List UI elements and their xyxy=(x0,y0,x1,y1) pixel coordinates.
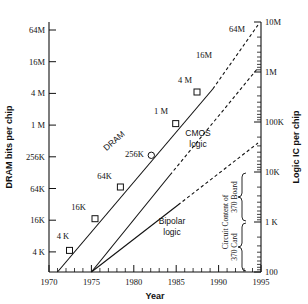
chart-figure: 64M 16M 4 M 1 M 256K 64K 16K 4 K DRAM bi… xyxy=(0,0,308,304)
left-tick-label: 16K xyxy=(30,215,46,225)
left-tick-label: 16M xyxy=(29,57,46,67)
data-point-marker xyxy=(148,152,154,158)
right-axis-tick-labels: 10M 1M 100K 10K 1 K 100 xyxy=(265,17,285,277)
bracket-370-board xyxy=(238,173,246,221)
point-label: 1 M xyxy=(154,106,168,116)
point-label: 256K xyxy=(125,149,145,159)
data-point-marker xyxy=(67,247,73,253)
left-tick-label: 1 M xyxy=(31,120,45,130)
x-axis-title: Year xyxy=(145,291,165,301)
x-tick-label: 1980 xyxy=(125,277,142,287)
series-label-cmos-line1: CMOS xyxy=(185,128,211,138)
series-label-bipolar-line2: logic xyxy=(163,227,181,237)
series-label-bipolar-line1: Bipolar xyxy=(159,216,186,226)
left-axis-ticks xyxy=(49,30,56,252)
right-tick-label: 1M xyxy=(265,67,277,77)
x-tick-label: 1990 xyxy=(210,277,227,287)
x-axis-tick-labels: 1970 1975 1980 1985 1990 1995 xyxy=(41,277,270,287)
right-tick-label: 10M xyxy=(265,17,282,27)
right-tick-label: 10K xyxy=(265,167,281,177)
x-axis-minor-ticks xyxy=(58,268,253,272)
x-tick-label: 1975 xyxy=(83,277,100,287)
point-label: 16M xyxy=(196,50,213,60)
left-tick-label: 64M xyxy=(29,25,46,35)
right-axis-major-ticks xyxy=(254,22,261,272)
right-tick-label: 100K xyxy=(265,117,285,127)
point-label: 4 M xyxy=(178,75,192,85)
data-point-marker xyxy=(194,89,200,95)
bracket-370-card xyxy=(238,223,246,271)
x-tick-label: 1995 xyxy=(253,277,270,287)
right-tick-label: 1 K xyxy=(265,217,278,227)
left-tick-label: 64K xyxy=(30,184,46,194)
annotation-370-board: 370 Board xyxy=(230,181,239,213)
circuit-content-annotation: 370 Board 370 Card Circuit Content of xyxy=(221,173,246,271)
x-tick-label: 1985 xyxy=(168,277,185,287)
point-label: 64M xyxy=(229,24,246,34)
left-tick-label: 4 M xyxy=(31,88,45,98)
x-tick-label: 1970 xyxy=(41,277,58,287)
annotation-circuit-content: Circuit Content of xyxy=(221,194,230,249)
point-label: 64K xyxy=(97,171,113,181)
series-label-dram: DRAM xyxy=(101,129,126,153)
left-tick-label: 256K xyxy=(26,152,46,162)
series-label-bipolar-logic: Bipolar logic xyxy=(159,216,186,237)
series-label-cmos-logic: CMOS logic xyxy=(185,128,211,149)
point-label: 4 K xyxy=(57,231,70,241)
point-label: 16K xyxy=(71,202,87,212)
left-tick-label: 4 K xyxy=(32,247,45,257)
annotation-370-card: 370 Card xyxy=(230,233,239,261)
data-point-marker xyxy=(92,216,98,222)
left-axis-tick-labels: 64M 16M 4 M 1 M 256K 64K 16K 4 K xyxy=(26,25,46,257)
data-point-marker xyxy=(173,121,179,127)
y-axis-title: DRAM bits per chip xyxy=(4,105,14,189)
data-point-marker xyxy=(117,184,123,190)
dram-point-labels: 4 K 16K 64K 256K 1 M 4 M 16M 64M xyxy=(57,24,246,241)
right-tick-label: 100 xyxy=(265,267,278,277)
chart-svg: 64M 16M 4 M 1 M 256K 64K 16K 4 K DRAM bi… xyxy=(0,0,308,304)
series-label-cmos-line2: logic xyxy=(189,139,207,149)
y2-axis-title: Logic IC per chip xyxy=(291,110,301,184)
x-axis-major-ticks xyxy=(49,265,261,272)
